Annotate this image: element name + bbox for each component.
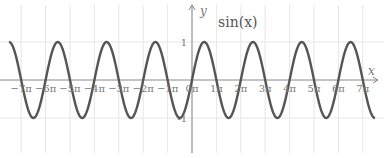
- x-tick-label: −6π: [35, 83, 57, 94]
- x-tick-label: 6π: [332, 83, 345, 94]
- x-tick-label: 2π: [234, 83, 247, 94]
- y-axis-label: y: [199, 4, 207, 18]
- sine-chart: −7π−6π−5π−4π−3π−2π−1π0π1π2π3π4π5π6π7π 1-…: [0, 0, 384, 158]
- x-tick-label: 1π: [210, 83, 223, 94]
- x-tick-label: 4π: [283, 83, 296, 94]
- x-tick-label: 3π: [259, 83, 272, 94]
- y-tick-label: 1: [181, 37, 187, 48]
- x-tick-label: −5π: [59, 83, 81, 94]
- x-axis-label: x: [368, 64, 375, 78]
- x-tick-label: −3π: [108, 83, 130, 94]
- x-tick-label: −7π: [11, 83, 33, 94]
- x-tick-label: −4π: [84, 83, 106, 94]
- chart-title: sin(x): [218, 14, 258, 30]
- axes: [0, 5, 378, 153]
- x-tick-labels: −7π−6π−5π−4π−3π−2π−1π0π1π2π3π4π5π6π7π: [11, 83, 370, 94]
- x-tick-label: 0π: [186, 83, 199, 94]
- x-tick-label: −1π: [157, 83, 179, 94]
- x-tick-label: 7π: [356, 83, 369, 94]
- y-tick-label: -1: [177, 113, 187, 124]
- x-tick-label: 5π: [308, 83, 321, 94]
- x-tick-label: −2π: [133, 83, 155, 94]
